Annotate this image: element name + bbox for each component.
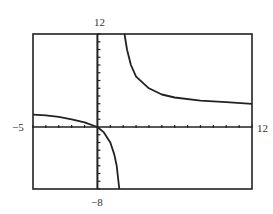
ymin-label: −8 xyxy=(91,197,103,208)
xmax-label: 12 xyxy=(257,123,268,134)
ymax-label: 12 xyxy=(94,17,105,28)
curve-branch-2 xyxy=(125,34,253,104)
xmin-label: −5 xyxy=(12,122,24,133)
axes xyxy=(33,34,252,189)
graph xyxy=(0,0,273,214)
graph-window-frame xyxy=(33,34,252,189)
curves xyxy=(33,34,252,189)
